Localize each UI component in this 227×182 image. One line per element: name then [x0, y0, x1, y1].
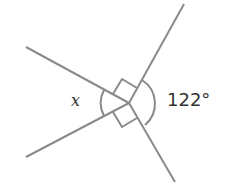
- angle-diagram: x 122°: [0, 0, 227, 182]
- right-angle-marker-top: [113, 79, 137, 94]
- angle-label-x: x: [71, 91, 80, 110]
- angle-label-122: 122°: [167, 89, 210, 110]
- angle-arc-x: [101, 90, 104, 116]
- angle-arc-122: [142, 80, 155, 125]
- ray-lower-left: [26, 103, 129, 157]
- right-angle-marker-bottom: [113, 112, 137, 127]
